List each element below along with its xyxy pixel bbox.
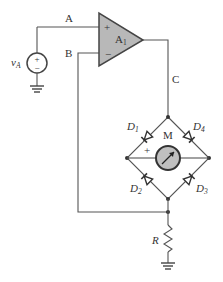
diode-d4 [183,131,194,142]
resistor-r [164,225,172,252]
wire-b-feedback [78,53,168,212]
meter-plus: + [144,144,150,156]
d3-label: D3 [195,182,208,196]
source-label: vA [11,56,21,70]
ground-icon-resistor [161,263,175,269]
resistor-label: R [151,234,159,246]
d1-label: D1 [126,120,139,134]
opamp-plus: + [104,21,110,33]
voltage-source: + − [27,27,47,86]
node-b-label: B [65,47,72,59]
d4-label: D4 [192,120,205,134]
diode-d2 [141,173,152,184]
circuit-diagram: + − vA A B + − A1 C [0,0,223,282]
meter-icon [156,146,180,170]
node-a-label: A [65,12,73,24]
wire-c [143,40,168,117]
ground-icon-source [30,86,44,92]
diode-d3 [183,173,194,184]
diode-d1 [141,131,152,142]
source-minus: − [34,63,39,73]
meter-label: M [163,129,173,141]
d2-label: D2 [129,182,142,196]
node-c-label: C [172,73,179,85]
opamp-a1: + − A1 [99,13,143,66]
opamp-minus: − [105,48,111,60]
